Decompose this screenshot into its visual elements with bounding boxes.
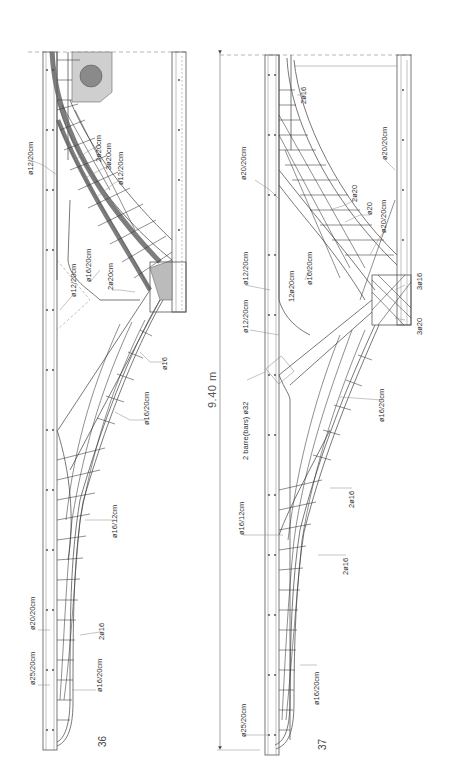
label-36-l13: ø25/20cm bbox=[28, 652, 37, 685]
label-37-l19: ø25/20cm bbox=[239, 704, 248, 737]
label-36-l8: ø16 bbox=[160, 357, 169, 370]
top-slab bbox=[43, 52, 57, 750]
duct-circle bbox=[80, 65, 102, 87]
label-36-l3: 3ø20cm bbox=[104, 143, 113, 170]
reinforcement-drawing: ø12/20cm 2ø20cm 3ø20cm ø12/20cm ø12/20cm… bbox=[0, 0, 450, 778]
label-37-l3: ø20/20cm bbox=[380, 127, 389, 160]
label-37-l13: 2 barre(bars) ø32 bbox=[241, 402, 250, 460]
label-36-l7: 2ø20cm bbox=[106, 263, 115, 290]
label-36-l5: ø12/20cm bbox=[69, 264, 78, 297]
bottom-slab bbox=[172, 52, 186, 312]
label-37-l10: ø12/20cm bbox=[241, 300, 250, 333]
label-37-l4: 2ø20 bbox=[350, 185, 359, 202]
label-37-l18: ø16/20cm bbox=[312, 672, 321, 705]
label-36-l11: ø20/20cm bbox=[28, 597, 37, 630]
figure-36: ø12/20cm 2ø20cm 3ø20cm ø12/20cm ø12/20cm… bbox=[26, 52, 188, 750]
label-36-l4: ø12/20cm bbox=[116, 152, 125, 185]
label-36-l1: ø12/20cm bbox=[26, 142, 35, 175]
label-37-l8: 12ø20cm bbox=[287, 271, 296, 302]
label-37-l7: ø12/20cm bbox=[241, 252, 250, 285]
label-37-l1: 2ø16 bbox=[299, 87, 308, 104]
label-36-l2: 2ø20cm bbox=[94, 135, 103, 162]
label-37-l5: ø20 bbox=[365, 202, 374, 215]
label-37-l6: ø20/20cm bbox=[379, 200, 388, 233]
label-37-l17: 2ø16 bbox=[341, 558, 350, 575]
label-36-l14: ø16/20cm bbox=[95, 659, 104, 692]
label-37-l11: 3ø16 bbox=[415, 273, 424, 290]
label-36-l6: ø16/20cm bbox=[84, 249, 93, 282]
label-36-l9: ø16/20cm bbox=[142, 392, 151, 425]
label-37-l12: 3ø20 bbox=[415, 318, 424, 335]
label-36-l10: ø16/12cm bbox=[110, 505, 119, 538]
label-37-l16: ø16/12cm bbox=[237, 502, 246, 535]
dimension-label: 9.40 m bbox=[206, 371, 218, 408]
figure-37: 2ø16 ø20/20cm ø20/20cm 2ø20 ø20 ø20/20cm… bbox=[220, 55, 424, 755]
label-37-l2: ø20/20cm bbox=[239, 147, 248, 180]
label-37-l15: 2ø16 bbox=[347, 491, 356, 508]
label-37-l14: ø16/20cm bbox=[377, 389, 386, 422]
label-37-l9: ø16/20cm bbox=[305, 252, 314, 285]
dimension-9-40m: 9.40 m bbox=[206, 52, 260, 750]
figure-37-number: 37 bbox=[317, 738, 328, 750]
figure-36-number: 36 bbox=[97, 735, 108, 747]
label-36-l12: 2ø16 bbox=[97, 623, 106, 640]
